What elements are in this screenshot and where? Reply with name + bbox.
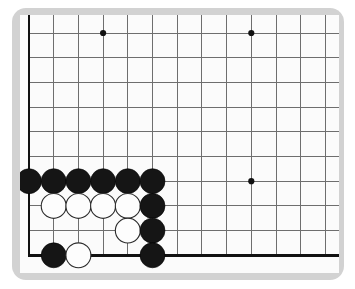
star-point-icon <box>100 30 106 36</box>
white-stone[interactable] <box>115 218 140 243</box>
black-stone[interactable] <box>17 169 42 194</box>
black-stone[interactable] <box>140 243 165 268</box>
grid-lines <box>29 15 339 255</box>
white-stone[interactable] <box>41 193 66 218</box>
black-stone[interactable] <box>140 193 165 218</box>
black-stone[interactable] <box>140 218 165 243</box>
board-edge-lines <box>28 15 339 255</box>
black-stone[interactable] <box>41 243 66 268</box>
white-stone[interactable] <box>66 243 91 268</box>
black-stone[interactable] <box>41 169 66 194</box>
black-stone[interactable] <box>66 169 91 194</box>
stones[interactable] <box>17 169 165 268</box>
go-board-app <box>0 0 355 289</box>
black-stone[interactable] <box>91 169 116 194</box>
white-stone[interactable] <box>115 193 140 218</box>
board-grid-and-stones[interactable] <box>0 0 355 289</box>
star-point-icon <box>248 30 254 36</box>
white-stone[interactable] <box>91 193 116 218</box>
white-stone[interactable] <box>66 193 91 218</box>
black-stone[interactable] <box>140 169 165 194</box>
star-point-icon <box>248 178 254 184</box>
black-stone[interactable] <box>115 169 140 194</box>
